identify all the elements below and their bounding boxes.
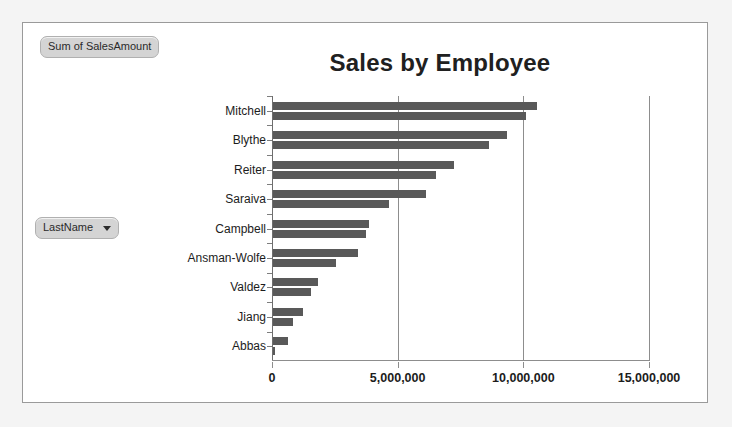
bar[interactable] bbox=[273, 288, 311, 296]
chart-title-text: Sales by Employee bbox=[180, 49, 551, 76]
value-gridline bbox=[523, 96, 524, 361]
bar[interactable] bbox=[273, 347, 275, 355]
category-axis-label: Mitchell bbox=[225, 104, 266, 118]
value-gridline bbox=[649, 96, 650, 361]
bar[interactable] bbox=[273, 190, 426, 198]
bar[interactable] bbox=[273, 337, 288, 345]
bar[interactable] bbox=[273, 318, 293, 326]
value-axis-labels: 05,000,00010,000,00015,000,000 bbox=[272, 362, 649, 390]
category-axis-label: Abbas bbox=[232, 339, 266, 353]
value-axis-tick bbox=[649, 362, 650, 368]
bar[interactable] bbox=[273, 200, 389, 208]
category-axis-line bbox=[272, 360, 649, 361]
bar[interactable] bbox=[273, 102, 537, 110]
category-axis-label: Reiter bbox=[234, 163, 266, 177]
category-axis-label: Jiang bbox=[237, 310, 266, 324]
chart-title: Sales by Employee bbox=[23, 49, 707, 77]
value-axis-label: 0 bbox=[269, 371, 276, 385]
category-axis-label: Saraiva bbox=[225, 192, 266, 206]
bar[interactable] bbox=[273, 112, 526, 120]
bar[interactable] bbox=[273, 131, 507, 139]
category-axis-label: Valdez bbox=[230, 280, 266, 294]
bar[interactable] bbox=[273, 161, 454, 169]
category-axis-label: Ansman-Wolfe bbox=[188, 251, 266, 265]
value-axis-tick bbox=[523, 362, 524, 368]
category-axis-label: Campbell bbox=[215, 222, 266, 236]
value-axis-label: 10,000,000 bbox=[492, 371, 555, 385]
category-axis-label: Blythe bbox=[233, 133, 266, 147]
category-axis-labels: MitchellBlytheReiterSaraivaCampbellAnsma… bbox=[78, 96, 266, 361]
value-axis-label: 15,000,000 bbox=[618, 371, 681, 385]
bar[interactable] bbox=[273, 308, 303, 316]
bar[interactable] bbox=[273, 249, 358, 257]
value-axis-tick bbox=[272, 362, 273, 368]
pivot-chart-panel: Sum of SalesAmount LastName Sales by Emp… bbox=[22, 22, 708, 403]
bar[interactable] bbox=[273, 220, 369, 228]
bar[interactable] bbox=[273, 230, 366, 238]
bar[interactable] bbox=[273, 171, 436, 179]
bar[interactable] bbox=[273, 141, 489, 149]
bar[interactable] bbox=[273, 259, 336, 267]
bar[interactable] bbox=[273, 278, 318, 286]
screenshot-root: Sum of SalesAmount LastName Sales by Emp… bbox=[0, 0, 732, 427]
plot-area bbox=[272, 96, 649, 361]
value-axis-label: 5,000,000 bbox=[370, 371, 426, 385]
value-axis-tick bbox=[398, 362, 399, 368]
